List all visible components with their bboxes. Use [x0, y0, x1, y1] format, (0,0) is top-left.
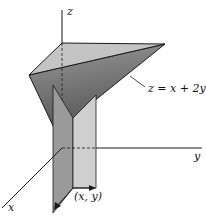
diagram-figure: z y x z = x + 2y (x, y) [0, 0, 206, 216]
surface-label-pointer [130, 76, 145, 87]
y-axis-label: y [194, 150, 200, 163]
x-axis-label: x [8, 201, 14, 214]
point-label: (x, y) [74, 190, 102, 203]
diagram-graphic [0, 0, 206, 216]
surface-equation-label: z = x + 2y [148, 82, 206, 95]
z-axis-label: z [67, 5, 73, 18]
